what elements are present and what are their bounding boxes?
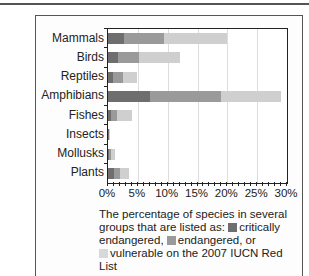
plot-area [107, 28, 288, 184]
x-tick-label: 25% [245, 187, 268, 199]
bar-segment [108, 33, 124, 44]
x-tick [238, 182, 239, 186]
bar-segment [120, 168, 129, 179]
x-tick-label: 5% [129, 187, 146, 199]
bar-segment [117, 110, 132, 121]
bar-segment [108, 91, 150, 102]
vulnerable-swatch [99, 249, 108, 258]
y-tick [104, 28, 108, 29]
x-tick [137, 182, 138, 186]
bar-segment [124, 33, 164, 44]
category-label: Amphibians [41, 88, 104, 102]
legend-vulnerable: vulnerable on the 2007 IUCN Red List [99, 247, 283, 272]
x-tick [179, 182, 180, 186]
gridline [257, 29, 258, 183]
x-tick-label: 0% [99, 187, 116, 199]
category-label: Insects [66, 127, 104, 141]
y-tick [104, 105, 108, 106]
bar-segment [150, 91, 222, 102]
x-tick [286, 182, 287, 186]
x-tick-label: 15% [185, 187, 208, 199]
x-tick [256, 182, 257, 186]
x-tick [208, 182, 209, 186]
x-tick [173, 182, 174, 186]
x-tick [202, 182, 203, 186]
bar-segment [118, 52, 139, 63]
x-tick [119, 182, 120, 186]
bar-segment [108, 52, 118, 63]
category-label: Fishes [69, 108, 104, 122]
x-tick-label: 10% [155, 187, 178, 199]
x-tick [268, 182, 269, 186]
x-tick [280, 182, 281, 186]
y-tick [104, 47, 108, 48]
x-tick [214, 182, 215, 186]
bar-segment [139, 52, 180, 63]
critically-endangered-swatch [228, 223, 237, 232]
bar-segment [113, 72, 123, 83]
y-tick [104, 86, 108, 87]
y-tick [104, 144, 108, 145]
category-label: Mammals [52, 31, 104, 45]
legend-endangered: endangered, or [178, 234, 256, 246]
gridline [198, 29, 199, 183]
x-tick [226, 182, 227, 186]
category-label: Plants [71, 165, 104, 179]
x-tick-label: 20% [215, 187, 238, 199]
top-divider [0, 3, 309, 5]
chart-caption: The percentage of species in several gro… [99, 208, 299, 273]
bar-segment [221, 91, 281, 102]
x-tick [161, 182, 162, 186]
gridline [227, 29, 228, 183]
x-tick [167, 182, 168, 186]
y-tick [104, 163, 108, 164]
endangered-swatch [167, 236, 176, 245]
x-tick-label: 30% [274, 187, 297, 199]
y-tick [104, 67, 108, 68]
x-tick [107, 182, 108, 186]
x-tick [244, 182, 245, 186]
x-tick [185, 182, 186, 186]
x-tick [197, 182, 198, 186]
x-tick [220, 182, 221, 186]
category-label: Birds [77, 50, 104, 64]
x-tick [262, 182, 263, 186]
y-tick [104, 124, 108, 125]
x-tick [250, 182, 251, 186]
bar-segment [109, 129, 110, 140]
category-label: Reptiles [61, 69, 104, 83]
x-tick [125, 182, 126, 186]
x-tick [143, 182, 144, 186]
x-tick [232, 182, 233, 186]
x-tick [155, 182, 156, 186]
x-tick [191, 182, 192, 186]
bar-segment [164, 33, 227, 44]
bar-segment [111, 149, 115, 160]
bar-segment [123, 72, 137, 83]
x-tick [274, 182, 275, 186]
category-label: Mollusks [57, 146, 104, 160]
x-tick [149, 182, 150, 186]
x-tick [131, 182, 132, 186]
x-tick [113, 182, 114, 186]
